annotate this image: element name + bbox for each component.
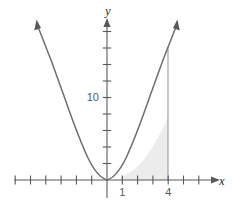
y-tick-label-10: 10: [87, 91, 99, 103]
x-tick-label-4: 4: [165, 186, 171, 198]
parabola-area-figure: 1 4 10 x y: [0, 0, 232, 216]
curve-left-arrow-icon: [34, 20, 41, 31]
chart-canvas: 1 4 10 x y: [0, 0, 232, 216]
y-axis-arrow-icon: [104, 18, 111, 27]
shaded-area-under-curve: [122, 117, 168, 181]
x-axis-label: x: [218, 174, 225, 188]
x-tick-label-1: 1: [119, 186, 125, 198]
y-axis-label: y: [104, 4, 111, 18]
curve-right-arrow-icon: [173, 20, 180, 31]
